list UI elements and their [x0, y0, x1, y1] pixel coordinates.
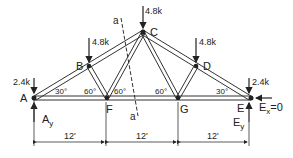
label-B: B	[76, 60, 83, 72]
label-C: C	[150, 26, 158, 38]
angle-E: 30°	[216, 87, 228, 96]
dimension-3: 12'	[207, 131, 219, 141]
angle-A: 30°	[55, 87, 67, 96]
load-B: 4.8k	[92, 37, 110, 47]
label-F: F	[106, 103, 113, 115]
section-label-bottom: a	[130, 111, 136, 122]
section-line-a-a	[121, 18, 138, 116]
joint-C	[141, 30, 146, 35]
reaction-Ex: Ex=0	[259, 101, 283, 116]
load-D: 4.8k	[199, 37, 217, 47]
section-label-top: a	[113, 15, 119, 26]
truss-diagram: A B C D E F G 2.4k 4.8k 4.8k 4.8k 2.4k 3…	[0, 0, 293, 158]
joint-A	[32, 96, 37, 101]
label-D: D	[203, 60, 211, 72]
angle-F-right: 60°	[114, 87, 126, 96]
joint-E	[249, 96, 254, 101]
joint-G	[176, 96, 181, 101]
joint-F	[105, 96, 110, 101]
reaction-Ay: Ay	[42, 113, 53, 128]
dimension-2: 12'	[136, 131, 148, 141]
label-E: E	[237, 102, 244, 114]
angle-G-left: 60°	[155, 87, 167, 96]
reaction-Ey: Ey	[233, 116, 244, 131]
dimension-1: 12'	[64, 131, 76, 141]
joint-B	[87, 64, 92, 69]
label-A: A	[20, 92, 28, 104]
label-G: G	[180, 103, 189, 115]
load-C: 4.8k	[145, 6, 163, 16]
joint-D	[194, 64, 199, 69]
load-E: 2.4k	[252, 77, 270, 87]
angle-F-left: 60°	[84, 87, 96, 96]
load-A: 2.4k	[13, 77, 31, 87]
